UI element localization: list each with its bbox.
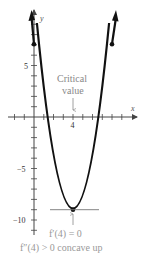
point-8-7 xyxy=(110,42,115,47)
y-axis-ticks xyxy=(31,24,37,230)
critical-value-label-line1: Critical xyxy=(57,73,87,84)
second-derivative-caption: f″(4) > 0 concave up xyxy=(20,242,103,254)
derivative-caption: f′(4) = 0 xyxy=(49,228,82,240)
y-tick-label-neg5: −5 xyxy=(17,165,26,174)
x-axis: x 4 xyxy=(8,104,137,130)
y-tick-label-neg10: −10 xyxy=(13,216,26,225)
critical-value-label-line2: value xyxy=(62,85,84,96)
y-tick-label-5: 5 xyxy=(24,62,28,71)
x-axis-label: x xyxy=(130,104,135,113)
curve-arrow-right-icon xyxy=(112,10,119,22)
x-tick-label-4: 4 xyxy=(71,121,75,130)
point-0-7 xyxy=(32,42,37,47)
y-axis-label: y xyxy=(39,14,44,23)
chart-canvas: x 4 y 5 −5 −10 xyxy=(0,0,143,261)
